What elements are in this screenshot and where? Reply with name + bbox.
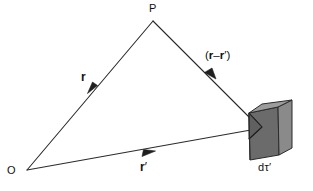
cube-right-face	[278, 100, 292, 155]
vector-r-line	[27, 21, 153, 170]
vector-r-prime-arrowhead	[142, 150, 156, 157]
label-origin-o: O	[7, 165, 16, 176]
label-vector-r-prime: r′	[140, 161, 147, 173]
volume-element-prime: ′	[269, 161, 271, 173]
vector-separation-line	[153, 21, 258, 126]
label-vector-r-prime-mark: ′	[145, 160, 147, 174]
vector-r-group	[27, 21, 153, 170]
vector-separation-group	[153, 21, 258, 126]
label-vector-r: r	[81, 71, 86, 83]
vector-separation-arrowhead	[205, 68, 217, 79]
separation-paren-close: )	[226, 49, 230, 61]
label-point-p: P	[149, 3, 156, 14]
label-volume-element: dτ′	[258, 162, 271, 173]
volume-element-cube	[249, 100, 292, 160]
vector-diagram-figure: P O r r′ (r–r′) dτ′	[0, 0, 313, 191]
label-separation-vector: (r–r′)	[205, 50, 230, 62]
